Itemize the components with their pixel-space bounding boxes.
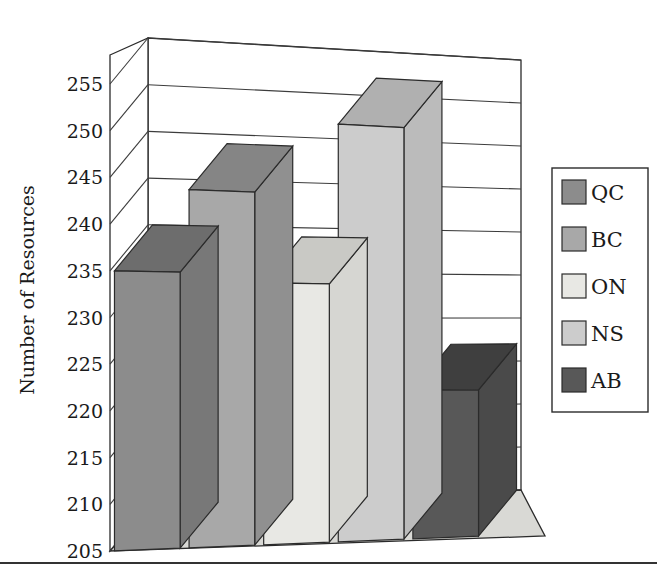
legend: QCBCONNSAB <box>552 168 648 412</box>
legend-label-bc: BC <box>591 228 623 252</box>
legend-item-qc[interactable]: QC <box>562 180 624 205</box>
y-axis-tick-label: 230 <box>67 307 103 329</box>
bar-chart-3d: 255250245240235230225220215210205 Number… <box>0 0 657 570</box>
legend-label-qc: QC <box>591 181 624 205</box>
legend-item-ns[interactable]: NS <box>562 321 624 346</box>
legend-item-ab[interactable]: AB <box>562 368 622 393</box>
y-axis-tick-label: 220 <box>67 400 103 422</box>
y-axis-tick-label: 215 <box>67 447 103 469</box>
legend-item-on[interactable]: ON <box>562 274 627 299</box>
bar-group <box>114 78 516 551</box>
y-axis-tick-label: 210 <box>67 493 103 515</box>
y-axis-title: Number of Resources <box>16 185 38 395</box>
y-axis-title-text: Number of Resources <box>16 185 38 395</box>
y-axis-tick-label: 205 <box>67 540 103 562</box>
legend-swatch-ab <box>562 368 586 392</box>
gridline <box>148 85 521 103</box>
gridline <box>148 38 521 60</box>
bar-qc[interactable] <box>114 225 218 551</box>
gridline <box>148 131 521 146</box>
y-axis-tick-label: 250 <box>67 120 103 142</box>
legend-swatch-on <box>562 274 586 298</box>
legend-swatch-qc <box>562 180 586 204</box>
legend-label-ab: AB <box>590 369 622 393</box>
legend-item-bc[interactable]: BC <box>562 227 623 252</box>
legend-label-on: ON <box>591 275 627 299</box>
chart-figure: 255250245240235230225220215210205 Number… <box>0 0 657 570</box>
legend-swatch-ns <box>562 321 586 345</box>
y-axis-tick-label: 225 <box>67 353 103 375</box>
y-axis-tick-labels: 255250245240235230225220215210205 <box>67 73 103 562</box>
y-axis-tick-label: 235 <box>67 260 103 282</box>
y-axis-tick-label: 240 <box>67 213 103 235</box>
legend-label-ns: NS <box>591 322 624 346</box>
y-axis-tick-label: 255 <box>67 73 103 95</box>
y-axis-tick-label: 245 <box>67 166 103 188</box>
legend-swatch-bc <box>562 227 586 251</box>
